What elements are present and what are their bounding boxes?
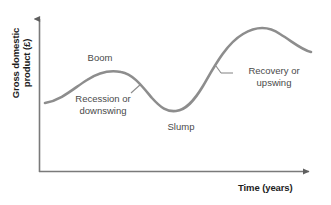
y-axis-title: Gross domestic product (£) xyxy=(10,7,32,119)
annotation-recovery: Recovery or upswing xyxy=(235,65,313,88)
annotation-boom: Boom xyxy=(82,52,118,64)
recession-leader-line xyxy=(131,84,141,93)
annotation-recession: Recession or downswing xyxy=(63,93,143,116)
chart-canvas xyxy=(0,0,331,205)
recovery-leader-tick xyxy=(216,66,221,73)
business-cycle-chart: Gross domestic product (£) Time (years) … xyxy=(0,0,331,205)
annotation-slump: Slump xyxy=(162,121,200,133)
x-axis-title: Time (years) xyxy=(238,182,293,193)
